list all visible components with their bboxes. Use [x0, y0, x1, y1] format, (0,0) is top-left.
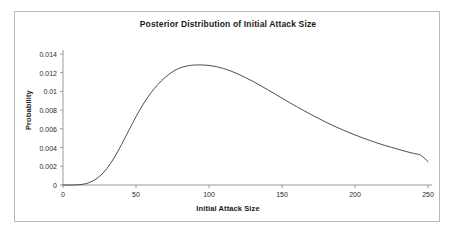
chart-frame: Posterior Distribution of Initial Attack… — [14, 11, 440, 222]
x-tick-label: 50 — [132, 191, 140, 198]
chart-figure: Posterior Distribution of Initial Attack… — [0, 0, 456, 235]
y-tick-label: 0.012 — [39, 69, 57, 76]
series-line-posterior-density — [63, 65, 428, 185]
plot-canvas — [15, 12, 441, 223]
y-tick-label: 0.006 — [39, 125, 57, 132]
y-axis-title: Probability — [24, 90, 33, 130]
y-tick-label: 0.002 — [39, 163, 57, 170]
y-tick-label: 0.014 — [39, 51, 57, 58]
y-tick-label: 0 — [53, 182, 57, 189]
x-tick-label: 150 — [276, 191, 288, 198]
y-tick-label: 0.004 — [39, 144, 57, 151]
y-tick-label: 0.008 — [39, 107, 57, 114]
x-tick-label: 100 — [203, 191, 215, 198]
x-tick-label: 250 — [422, 191, 434, 198]
x-tick-label: 200 — [349, 191, 361, 198]
plot-area: 00.0020.0040.0060.0080.010.0120.01405010… — [15, 12, 441, 223]
x-axis-title: Initial Attack Size — [15, 204, 441, 213]
y-tick-label: 0.01 — [43, 88, 57, 95]
x-tick-label: 0 — [61, 191, 65, 198]
